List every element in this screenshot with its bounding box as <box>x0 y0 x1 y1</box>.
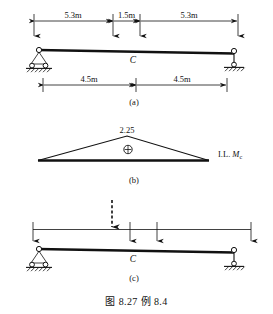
point-label-c-a: C <box>130 55 137 65</box>
figure-caption: 图 8.27 例 8.4 <box>0 293 273 308</box>
panel-label-c: (c) <box>129 273 139 283</box>
dimension-label-a-bottom-1: 4.5m <box>80 74 98 84</box>
panel-a: 5.3m 1.5m 5.3m <box>26 10 245 107</box>
dimension-label-a-top-3: 5.3m <box>180 10 198 20</box>
support-right-a <box>224 48 245 71</box>
influence-line-label: I.L.Mc <box>218 149 242 160</box>
reference-line-c <box>33 222 251 241</box>
panel-label-a: (a) <box>129 97 139 107</box>
point-label-c-c: C <box>130 254 137 264</box>
support-right-c <box>224 247 245 270</box>
panel-c: C (c) <box>26 200 251 283</box>
influence-line-label-prefix: I.L. <box>218 149 230 159</box>
dimension-line-top: 5.3m 1.5m 5.3m <box>34 10 238 36</box>
beam-member-a <box>38 50 234 54</box>
positive-area-sign <box>124 145 132 153</box>
influence-line-shape <box>38 136 209 161</box>
dimension-label-a-top-1: 5.3m <box>64 10 82 20</box>
dimension-line-bottom: 4.5m 4.5m <box>43 74 227 92</box>
figure-structural-influence-line: 5.3m 1.5m 5.3m <box>0 0 273 314</box>
beam-member-c <box>38 249 234 253</box>
influence-line-peak-value: 2.25 <box>120 125 135 135</box>
influence-line-label-subscript: c <box>239 153 242 160</box>
panel-label-b: (b) <box>129 175 139 185</box>
dimension-label-a-top-2: 1.5m <box>118 10 136 20</box>
panel-b: 2.25 I.L.Mc (b) <box>38 125 242 185</box>
dimension-label-a-bottom-2: 4.5m <box>173 74 191 84</box>
